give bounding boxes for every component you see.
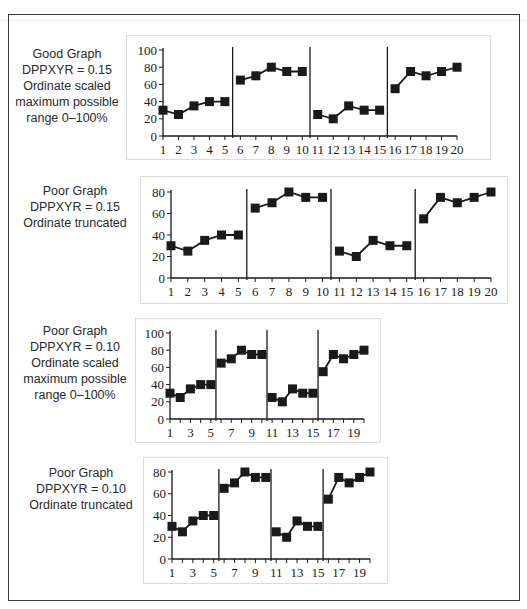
x-tick-label: 10 (296, 142, 309, 157)
data-point-marker (369, 236, 378, 245)
data-point-marker (319, 367, 328, 376)
x-tick-label: 20 (451, 142, 464, 157)
chart-panel-3: 020406080100135791113151719 (135, 318, 381, 443)
x-tick-label: 5 (235, 284, 242, 299)
data-point-marker (437, 67, 446, 76)
y-tick-label: 0 (160, 552, 167, 567)
data-point-marker (329, 350, 338, 359)
x-tick-label: 15 (306, 425, 319, 440)
x-tick-label: 12 (350, 284, 363, 299)
y-tick-label: 80 (152, 185, 165, 200)
data-point-marker (178, 527, 187, 536)
x-tick-label: 15 (373, 142, 386, 157)
x-tick-label: 2 (175, 142, 182, 157)
y-tick-label: 60 (144, 77, 157, 92)
data-point-marker (209, 511, 218, 520)
data-point-marker (227, 354, 236, 363)
y-tick-label: 20 (144, 111, 157, 126)
data-point-marker (251, 473, 260, 482)
caption-line: Ordinate truncated (16, 497, 146, 513)
data-point-marker (406, 67, 415, 76)
caption-line: Poor Graph (16, 465, 146, 481)
data-point-marker (301, 193, 310, 202)
data-point-marker (220, 97, 229, 106)
x-tick-label: 9 (248, 425, 255, 440)
data-point-marker (236, 76, 245, 85)
y-tick-label: 80 (144, 60, 157, 75)
caption-line: Poor Graph (10, 323, 140, 339)
x-tick-label: 13 (286, 425, 299, 440)
x-tick-label: 9 (252, 565, 258, 580)
x-tick-label: 7 (253, 142, 260, 157)
data-point-marker (251, 71, 260, 80)
y-tick-label: 100 (138, 43, 158, 58)
data-point-marker (159, 106, 168, 115)
data-point-marker (335, 247, 344, 256)
caption-line: Poor Graph (10, 183, 140, 199)
data-point-marker (220, 484, 229, 493)
y-tick-label: 40 (151, 377, 164, 392)
y-tick-label: 20 (152, 249, 165, 264)
x-tick-label: 18 (451, 284, 464, 299)
y-tick-label: 40 (152, 228, 165, 243)
caption-line: maximum possible (2, 94, 132, 110)
chart-2: 0204060801234567891011121314151617181920 (141, 177, 509, 305)
data-point-marker (329, 114, 338, 123)
y-tick-label: 0 (151, 129, 158, 144)
chart-panel-4: 020406080135791113151719 (143, 457, 388, 584)
data-point-marker (217, 231, 226, 240)
x-tick-label: 5 (208, 425, 215, 440)
x-tick-label: 3 (191, 142, 198, 157)
x-tick-label: 5 (210, 565, 217, 580)
data-point-marker (298, 67, 307, 76)
data-point-marker (436, 193, 445, 202)
data-point-marker (206, 380, 215, 389)
x-tick-label: 19 (435, 142, 448, 157)
y-tick-label: 40 (144, 94, 157, 109)
chart-1: 0204060801001234567891011121314151617181… (127, 36, 492, 161)
caption-graph-3: Poor Graph DPPXYR = 0.10 Ordinate scaled… (10, 323, 140, 403)
data-point-marker (200, 236, 209, 245)
data-point-marker (167, 241, 176, 250)
x-tick-label: 17 (404, 142, 418, 157)
y-tick-label: 20 (151, 394, 164, 409)
x-tick-label: 1 (169, 565, 176, 580)
data-point-marker (318, 193, 327, 202)
x-tick-label: 3 (187, 425, 194, 440)
caption-line: Ordinate scaled (10, 355, 140, 371)
chart-panel-1: 0204060801001234567891011121314151617181… (126, 35, 491, 160)
x-tick-label: 1 (167, 425, 174, 440)
caption-graph-1: Good Graph DPPXYR = 0.15 Ordinate scaled… (2, 46, 132, 126)
data-point-marker (272, 527, 281, 536)
caption-line: DPPXYR = 0.10 (16, 481, 146, 497)
x-tick-label: 17 (327, 425, 341, 440)
x-tick-label: 13 (367, 284, 380, 299)
y-tick-label: 0 (158, 412, 165, 427)
caption-line: range 0–100% (2, 110, 132, 126)
data-point-marker (453, 198, 462, 207)
x-tick-label: 11 (311, 142, 324, 157)
data-point-marker (345, 478, 354, 487)
data-point-marker (230, 478, 239, 487)
caption-line: maximum possible (10, 371, 140, 387)
data-point-marker (237, 346, 246, 355)
data-point-marker (240, 468, 249, 477)
x-tick-label: 15 (311, 565, 324, 580)
data-point-marker (234, 231, 243, 240)
caption-line: Ordinate scaled (2, 78, 132, 94)
x-tick-label: 8 (286, 284, 293, 299)
x-tick-label: 20 (485, 284, 498, 299)
x-tick-label: 7 (228, 425, 235, 440)
data-point-marker (385, 241, 394, 250)
data-point-marker (355, 473, 364, 482)
y-tick-label: 100 (145, 326, 165, 341)
data-point-marker (268, 198, 277, 207)
caption-line: Good Graph (2, 46, 132, 62)
caption-graph-2: Poor Graph DPPXYR = 0.15 Ordinate trunca… (10, 183, 140, 231)
data-point-marker (282, 533, 291, 542)
data-point-marker (176, 393, 185, 402)
x-tick-label: 1 (168, 284, 175, 299)
x-tick-label: 11 (270, 565, 283, 580)
y-tick-label: 20 (153, 530, 166, 545)
chart-3: 020406080100135791113151719 (136, 319, 382, 444)
